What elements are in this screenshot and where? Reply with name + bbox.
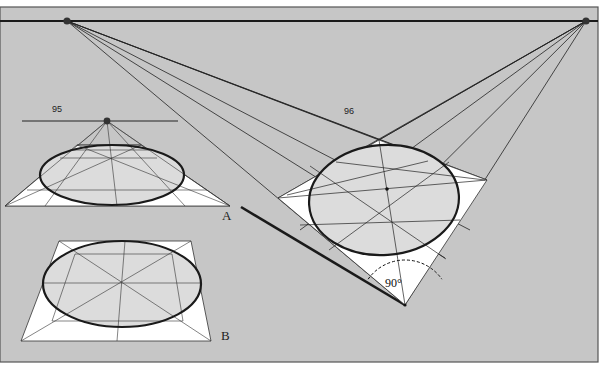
figure-96-bottom-vertex bbox=[403, 303, 406, 306]
right-angle-label: 90° bbox=[385, 276, 402, 290]
figure-96-center-dot bbox=[385, 187, 389, 191]
figure-label-a: A bbox=[222, 208, 232, 223]
figure-number-96: 96 bbox=[344, 106, 354, 116]
perspective-diagram: 9596AB90° bbox=[0, 0, 611, 369]
vp-left-dot bbox=[63, 17, 70, 24]
figure-a-vanishing-point bbox=[104, 118, 111, 125]
figure-label-b: B bbox=[221, 328, 230, 343]
vp-right-dot bbox=[582, 17, 589, 24]
figure-number-95: 95 bbox=[52, 104, 62, 114]
